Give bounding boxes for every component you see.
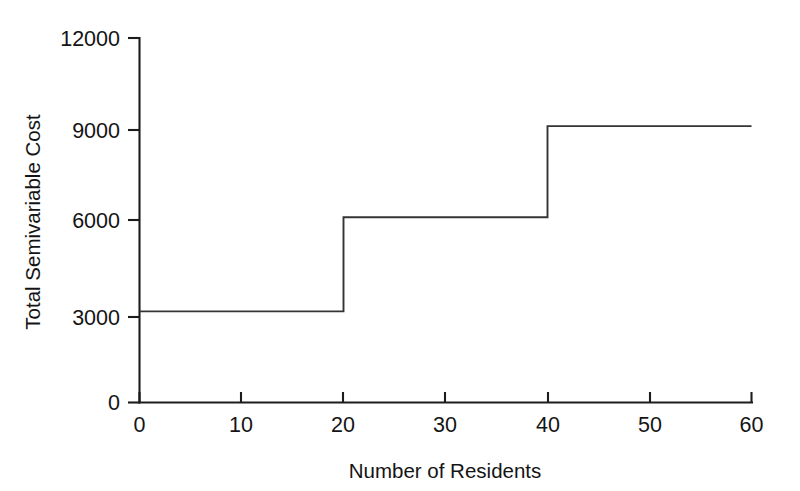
chart-figure: 0 3000 6000 9000 12000 0 10 20 30 40 50 … — [0, 0, 800, 491]
x-tick-label-40: 40 — [536, 413, 560, 437]
y-axis-title: Total Semivariable Cost — [21, 114, 44, 330]
y-tick-label-12000: 12000 — [60, 27, 120, 51]
x-tick-label-60: 60 — [740, 413, 764, 437]
y-tick-label-0: 0 — [108, 391, 120, 415]
y-axis-ticks — [128, 38, 140, 403]
y-tick-label-9000: 9000 — [72, 119, 120, 143]
y-tick-label-3000: 3000 — [72, 306, 120, 330]
x-tick-label-10: 10 — [229, 413, 253, 437]
x-tick-label-0: 0 — [134, 413, 146, 437]
x-tick-label-20: 20 — [331, 413, 355, 437]
x-tick-label-30: 30 — [433, 413, 457, 437]
y-tick-label-6000: 6000 — [72, 209, 120, 233]
series-line-total-semivariable-cost — [140, 126, 752, 311]
x-axis-title: Number of Residents — [349, 459, 542, 482]
x-tick-label-50: 50 — [638, 413, 662, 437]
x-axis-ticks — [140, 392, 752, 403]
step-chart: 0 3000 6000 9000 12000 0 10 20 30 40 50 … — [0, 0, 800, 491]
